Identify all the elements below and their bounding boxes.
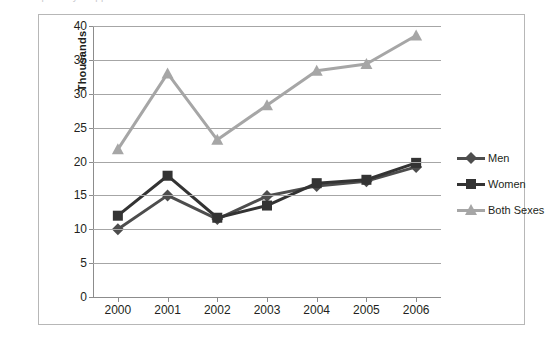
gridline [93,263,441,264]
y-axis-tick-labels: 0510152025303540 [53,15,87,326]
y-tick-mark [89,229,93,230]
y-tick-label: 5 [57,257,87,269]
y-tick-mark [89,195,93,196]
y-tick-mark [89,297,93,298]
legend-key-diamond-icon [457,152,485,164]
legend-item-women[interactable]: Women [457,171,527,197]
gridline [93,229,441,230]
x-tick-mark [366,297,367,302]
y-tick-label: 40 [57,20,87,32]
data-point-marker [410,29,422,40]
data-point-marker [163,171,173,181]
chart-frame: Thousands 0510152025303540 2000200120022… [38,14,525,325]
y-tick-mark [89,60,93,61]
y-tick-label: 15 [57,189,87,201]
y-tick-mark [89,263,93,264]
cropped-text-line: a faint partially cropped line of text a… [10,0,244,2]
legend-item-men[interactable]: Men [457,145,527,171]
y-tick-label: 20 [57,156,87,168]
x-tick-mark [267,297,268,302]
x-tick-mark [217,297,218,302]
data-point-marker [312,178,322,188]
gridline [93,60,441,61]
gridline [93,128,441,129]
gridline [93,162,441,163]
x-tick-mark [416,297,417,302]
legend-key-square-icon [457,178,485,190]
x-tick-mark [317,297,318,302]
data-point-marker [212,213,222,223]
x-tick-mark [118,297,119,302]
legend-key-triangle-icon [457,204,485,216]
x-tick-label: 2006 [386,303,446,317]
x-tick-mark [168,297,169,302]
legend-label: Women [488,178,526,190]
legend-key-marker [457,204,485,216]
data-point-marker [411,158,421,168]
legend-key-marker [457,152,485,164]
plot-area [93,26,441,297]
x-axis-tick-labels: 2000200120022003200420052006 [93,303,441,323]
legend-label: Both Sexes [488,204,544,216]
data-point-marker [262,201,272,211]
legend-key-marker [457,178,485,190]
series-line-both-sexes [118,35,416,149]
y-tick-mark [89,94,93,95]
data-point-marker [113,211,123,221]
legend-item-both-sexes[interactable]: Both Sexes [457,197,527,223]
y-tick-mark [89,162,93,163]
y-tick-label: 30 [57,88,87,100]
y-tick-label: 25 [57,122,87,134]
chart-legend: Men Women Both Sexes [457,145,527,223]
gridline [93,94,441,95]
gridline [93,195,441,196]
data-point-marker [361,175,371,185]
y-tick-mark [89,128,93,129]
y-tick-label: 10 [57,223,87,235]
y-tick-label: 0 [57,291,87,303]
cropped-text-above-chart: a faint partially cropped line of text a… [0,0,557,11]
legend-label: Men [488,152,509,164]
data-point-marker [162,67,174,78]
gridline [93,26,441,27]
chart-plot-wrapper: Thousands 0510152025303540 2000200120022… [39,15,526,326]
y-tick-label: 35 [57,54,87,66]
y-tick-mark [89,26,93,27]
